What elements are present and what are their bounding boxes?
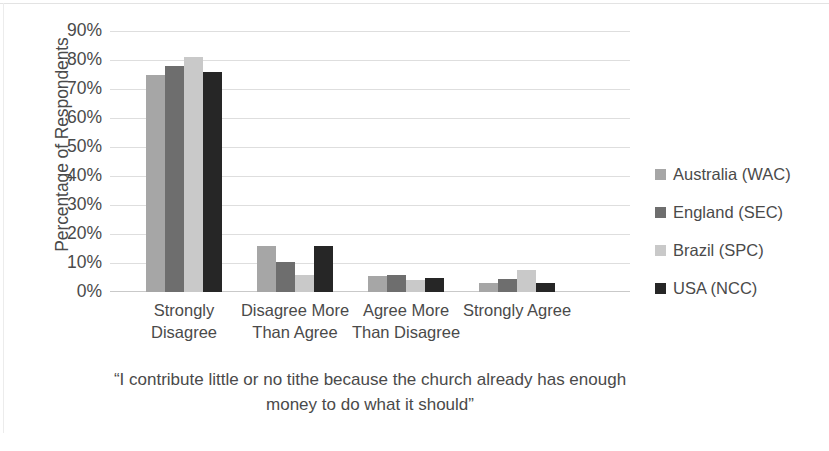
y-axis-tick-90: 90% bbox=[44, 22, 102, 40]
top-border-rule bbox=[0, 3, 829, 4]
y-axis-tick-10: 10% bbox=[44, 254, 102, 272]
bar-group bbox=[257, 31, 333, 292]
legend-item: England (SEC) bbox=[655, 193, 829, 231]
bar bbox=[406, 280, 425, 292]
x-axis-label-line-1: Agree More bbox=[363, 301, 449, 319]
bar bbox=[536, 283, 555, 292]
x-axis-label-line-2: Than Disagree bbox=[331, 322, 481, 344]
y-axis-tick-labels: 90%80%70%60%50%40%30%20%10%0% bbox=[44, 14, 102, 306]
bar bbox=[479, 283, 498, 292]
legend-label: USA (NCC) bbox=[673, 279, 757, 298]
caption-line-2: money to do what it should” bbox=[266, 395, 474, 414]
left-border-rule bbox=[3, 3, 4, 433]
bar bbox=[257, 246, 276, 292]
y-axis-tick-40: 40% bbox=[44, 167, 102, 185]
y-axis-tick-0: 0% bbox=[44, 283, 102, 301]
chart-legend: Australia (WAC)England (SEC)Brazil (SPC)… bbox=[655, 155, 829, 307]
chart-caption: “I contribute little or no tithe because… bbox=[92, 367, 648, 417]
bar bbox=[314, 246, 333, 292]
legend-item: USA (NCC) bbox=[655, 269, 829, 307]
bar bbox=[276, 262, 295, 292]
legend-swatch-icon bbox=[655, 283, 666, 294]
bar-group bbox=[146, 31, 222, 292]
bar bbox=[368, 276, 387, 292]
y-axis-tick-50: 50% bbox=[44, 138, 102, 156]
x-axis-category-labels: StronglyDisagreeDisagree MoreThan AgreeA… bbox=[110, 300, 630, 352]
bar-group bbox=[368, 31, 444, 292]
x-axis-label: Strongly Agree bbox=[442, 300, 592, 322]
legend-swatch-icon bbox=[655, 169, 666, 180]
legend-swatch-icon bbox=[655, 245, 666, 256]
bar bbox=[165, 66, 184, 292]
y-axis-tick-30: 30% bbox=[44, 196, 102, 214]
caption-line-1: “I contribute little or no tithe because… bbox=[114, 370, 626, 389]
y-axis-tick-80: 80% bbox=[44, 51, 102, 69]
legend-label: Australia (WAC) bbox=[673, 165, 791, 184]
legend-label: Brazil (SPC) bbox=[673, 241, 764, 260]
chart-screenshot: Percentage of Respondents 90%80%70%60%50… bbox=[0, 0, 829, 451]
bar bbox=[203, 72, 222, 292]
x-axis-label-line-1: Strongly Agree bbox=[463, 301, 571, 319]
plot-area bbox=[110, 31, 630, 292]
y-axis-tick-70: 70% bbox=[44, 80, 102, 98]
bar bbox=[498, 279, 517, 292]
y-axis-tick-60: 60% bbox=[44, 109, 102, 127]
bar-group bbox=[479, 31, 555, 292]
legend-swatch-icon bbox=[655, 207, 666, 218]
bar bbox=[146, 75, 165, 293]
bar bbox=[295, 275, 314, 292]
bar bbox=[387, 275, 406, 292]
legend-label: England (SEC) bbox=[673, 203, 783, 222]
y-axis-tick-20: 20% bbox=[44, 225, 102, 243]
x-axis-label-line-1: Strongly bbox=[154, 301, 215, 319]
legend-item: Australia (WAC) bbox=[655, 155, 829, 193]
bar bbox=[184, 57, 203, 292]
bar bbox=[517, 270, 536, 292]
bar bbox=[425, 278, 444, 293]
legend-item: Brazil (SPC) bbox=[655, 231, 829, 269]
